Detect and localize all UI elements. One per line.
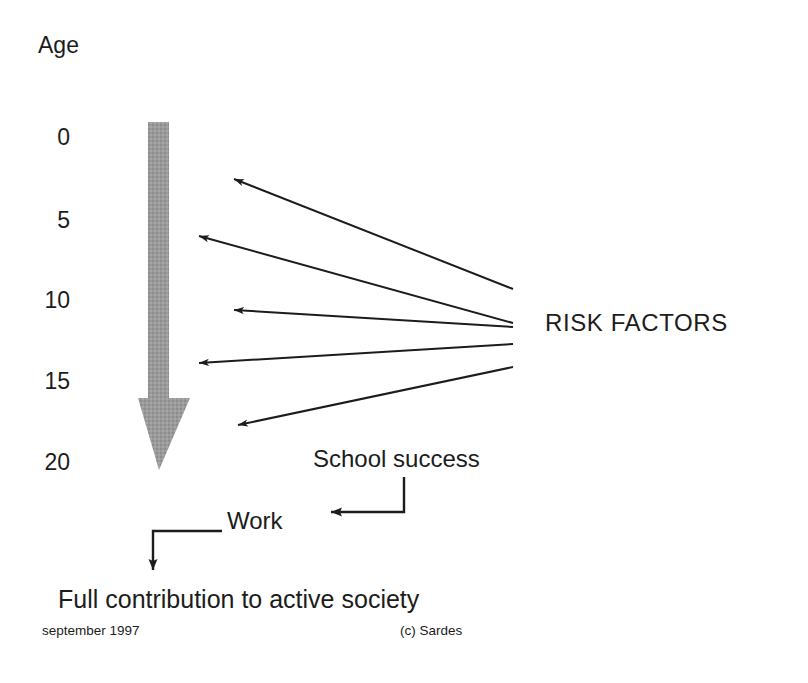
school-success-label: School success	[313, 447, 480, 471]
age-tick-20: 20	[26, 451, 70, 474]
risk-arrow-5	[238, 367, 513, 425]
age-timeline-arrow	[138, 122, 190, 470]
date-label: september 1997	[42, 624, 140, 638]
age-axis-label: Age	[38, 34, 79, 57]
diagram-vector-layer	[0, 0, 808, 683]
copyright-label: (c) Sardes	[400, 624, 462, 638]
risk-arrow-1	[234, 179, 513, 289]
work-to-outcome-connector	[153, 531, 222, 570]
risk-arrow-4	[199, 344, 513, 363]
outcome-label: Full contribution to active society	[58, 587, 419, 612]
age-tick-0: 0	[26, 126, 70, 149]
age-tick-5: 5	[26, 209, 70, 232]
risk-factor-arrows	[199, 179, 513, 425]
school-success-to-work-connector	[331, 477, 404, 512]
age-tick-10: 10	[26, 289, 70, 312]
age-tick-15: 15	[26, 370, 70, 393]
work-label: Work	[227, 509, 283, 533]
risk-arrow-3	[234, 310, 513, 327]
diagram-canvas: Age 0 5 10 15 20 RISK FACTORS School suc…	[0, 0, 808, 683]
risk-factors-label: RISK FACTORS	[545, 311, 728, 335]
